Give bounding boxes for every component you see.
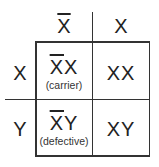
column-header-barred-x: X xyxy=(44,16,84,36)
column-header-x: X xyxy=(101,16,141,36)
column-header-label: X xyxy=(57,15,70,37)
cell-normal-male: XY xyxy=(93,119,149,139)
genotype: XX xyxy=(36,57,92,77)
genotype-allele: XX xyxy=(107,62,136,84)
genotype: XX xyxy=(93,63,149,83)
genotype: XY xyxy=(36,113,92,133)
row-header-label: X xyxy=(13,62,26,84)
cell-normal-female: XX xyxy=(93,63,149,83)
row-header-label: Y xyxy=(13,118,26,140)
genotype-allele: Y xyxy=(64,112,78,134)
grid-border-bottom xyxy=(35,155,150,157)
row-header-y: Y xyxy=(0,119,40,139)
column-header-label: X xyxy=(114,15,127,37)
grid-border-top xyxy=(35,41,150,43)
cell-carrier: XX (carrier) xyxy=(36,57,92,91)
grid-divider-horizontal xyxy=(5,99,150,100)
genotype-barred-allele: X xyxy=(50,56,64,78)
genotype: XY xyxy=(93,119,149,139)
row-header-x: X xyxy=(0,63,40,83)
genotype-allele: X xyxy=(64,56,78,78)
phenotype-note: (carrier) xyxy=(36,80,92,91)
genotype-allele: XY xyxy=(107,118,136,140)
genotype-barred-allele: X xyxy=(50,112,64,134)
cell-defective: XY (defective) xyxy=(36,113,92,147)
phenotype-note: (defective) xyxy=(36,136,92,147)
